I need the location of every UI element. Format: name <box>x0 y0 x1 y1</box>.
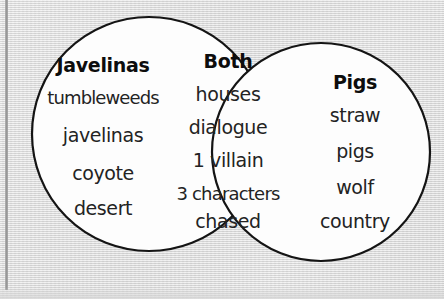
overlap-set-item-1: houses <box>196 83 261 105</box>
overlap-set-heading: Both <box>204 50 253 72</box>
overlap-set-item-5: chased <box>195 210 260 232</box>
left-set-item-2: javelinas <box>62 124 143 146</box>
left-set-item-1: tumbleweeds <box>47 87 159 108</box>
venn-diagram-page: Javelinas tumbleweeds javelinas coyote d… <box>0 0 444 299</box>
overlap-set-item-4: 3 characters <box>176 183 280 204</box>
right-set-item-2: pigs <box>336 140 374 162</box>
left-set-heading: Javelinas <box>54 54 149 76</box>
left-set-item-4: desert <box>74 197 132 219</box>
right-set-heading: Pigs <box>333 71 377 93</box>
right-set-item-4: country <box>320 210 390 232</box>
right-set-item-3: wolf <box>336 176 375 198</box>
right-set-item-1: straw <box>330 104 380 126</box>
overlap-set-item-2: dialogue <box>189 116 267 138</box>
left-set-item-3: coyote <box>72 162 134 184</box>
overlap-set-item-3: 1 villain <box>193 149 264 171</box>
venn-diagram-canvas: Javelinas tumbleweeds javelinas coyote d… <box>0 0 444 299</box>
